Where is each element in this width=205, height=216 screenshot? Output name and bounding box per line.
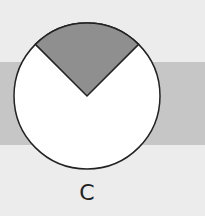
figure-label: C	[0, 180, 174, 205]
